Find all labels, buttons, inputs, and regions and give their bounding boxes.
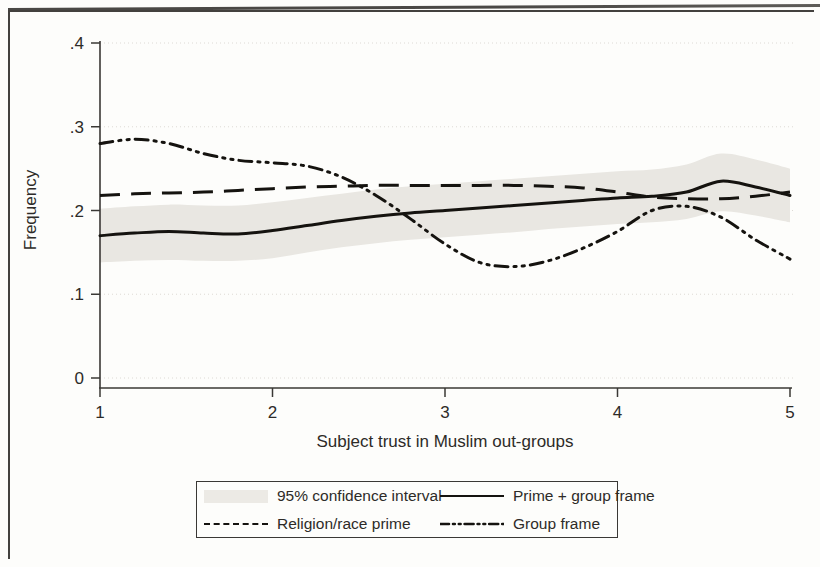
y-ticks-group: 0.1.2.3.4 <box>70 34 100 388</box>
y-axis-title: Frequency <box>21 169 40 250</box>
chart-legend: 95% confidence interval Prime + group fr… <box>196 481 618 538</box>
x-ticks-group: 12345 <box>95 388 794 422</box>
x-tick-label: 1 <box>95 403 104 422</box>
y-tick-label: 0 <box>75 369 84 388</box>
legend-key-dashed-line-icon <box>197 516 275 532</box>
x-tick-label: 2 <box>268 403 277 422</box>
legend-label-confidence-interval: 95% confidence interval <box>275 487 442 505</box>
y-tick-label: .3 <box>70 118 84 137</box>
x-tick-label: 4 <box>613 403 622 422</box>
legend-label-prime-plus-group-frame: Prime + group frame <box>511 487 655 505</box>
confidence-band-95 <box>100 153 790 262</box>
y-tick-label: .4 <box>70 34 84 53</box>
legend-row-1: 95% confidence interval Prime + group fr… <box>197 482 617 510</box>
y-tick-label: .2 <box>70 202 84 221</box>
legend-item-group-frame[interactable]: Group frame <box>433 510 600 538</box>
x-tick-label: 5 <box>785 403 794 422</box>
legend-label-religion-race-prime: Religion/race prime <box>275 515 411 533</box>
plot-area: 0.1.2.3.4 12345 Frequency Subject trust … <box>0 0 820 470</box>
x-tick-label: 3 <box>440 403 449 422</box>
legend-row-2: Religion/race prime Group frame <box>197 510 617 538</box>
legend-item-confidence-interval[interactable]: 95% confidence interval <box>197 482 433 510</box>
legend-label-group-frame: Group frame <box>511 515 600 533</box>
y-tick-label: .1 <box>70 285 84 304</box>
legend-item-religion-race-prime[interactable]: Religion/race prime <box>197 510 433 538</box>
figure-container: 0.1.2.3.4 12345 Frequency Subject trust … <box>0 0 820 567</box>
legend-item-prime-plus-group-frame[interactable]: Prime + group frame <box>433 482 655 510</box>
x-axis-title: Subject trust in Muslim out-groups <box>317 432 574 451</box>
legend-key-dash-dot-dot-line-icon <box>433 516 511 532</box>
dash-dot-dot-glyph-icon <box>440 522 504 526</box>
legend-key-shaded-band-icon <box>197 488 275 504</box>
chart-svg: 0.1.2.3.4 12345 Frequency Subject trust … <box>0 0 820 470</box>
legend-key-solid-line-icon <box>433 488 511 504</box>
